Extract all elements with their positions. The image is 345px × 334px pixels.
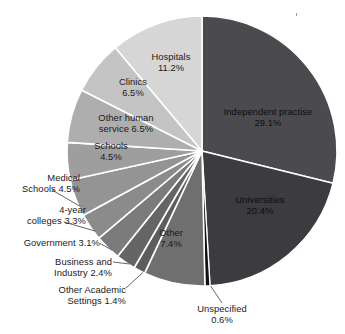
scan-artifact-speck [296,13,297,16]
pie-chart-canvas [0,0,345,334]
leader-line-unspecified [211,286,222,303]
pie-chart: Independent practise 29.1% Universities … [0,0,345,334]
pie-slices [67,16,337,286]
leader-line-other-academic-settings [126,272,143,288]
